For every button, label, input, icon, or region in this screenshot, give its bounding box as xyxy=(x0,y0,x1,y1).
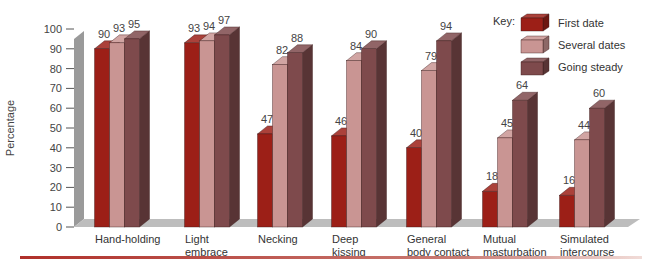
value-label: 16 xyxy=(563,174,575,186)
bar: 90 xyxy=(362,28,387,227)
bar: 97 xyxy=(215,14,240,227)
category-label: Hand-holding xyxy=(95,233,160,245)
value-label: 88 xyxy=(291,32,303,44)
legend-item: Going steady xyxy=(521,58,623,75)
bar-chart: 0102030405060708090100 90939593949747828… xyxy=(0,0,665,272)
value-label: 44 xyxy=(578,119,590,131)
category-label: Necking xyxy=(258,233,298,245)
bottom-rule xyxy=(20,256,642,259)
value-label: 90 xyxy=(98,28,110,40)
value-label: 84 xyxy=(350,40,362,52)
bar-group: 407994 xyxy=(407,20,462,227)
legend-item: Several dates xyxy=(521,36,626,53)
y-tick-label: 30 xyxy=(50,162,62,174)
y-tick-label: 50 xyxy=(50,122,62,134)
value-label: 94 xyxy=(203,20,215,32)
bar-group: 184564 xyxy=(483,79,538,227)
y-tick-label: 40 xyxy=(50,142,62,154)
value-label: 47 xyxy=(261,113,273,125)
bar-group: 478288 xyxy=(258,32,313,227)
legend-swatch xyxy=(521,62,543,75)
category-label: Light xyxy=(185,233,209,245)
axis-wall xyxy=(74,31,84,227)
y-tick-label: 70 xyxy=(50,82,62,94)
value-label: 40 xyxy=(410,127,422,139)
value-label: 18 xyxy=(486,170,498,182)
value-label: 93 xyxy=(188,22,200,34)
bar: 95 xyxy=(125,18,150,227)
value-label: 64 xyxy=(516,79,528,91)
bar: 94 xyxy=(437,20,462,227)
value-label: 90 xyxy=(365,28,377,40)
bar-group: 468490 xyxy=(332,28,387,227)
category-label: Simulated xyxy=(560,233,609,245)
legend-label: Going steady xyxy=(558,61,623,73)
bar: 60 xyxy=(590,87,615,227)
legend-label: Several dates xyxy=(558,39,626,51)
y-tick-label: 100 xyxy=(44,23,62,35)
y-tick-label: 20 xyxy=(50,181,62,193)
y-tick-label: 90 xyxy=(50,43,62,55)
bar-group: 939497 xyxy=(185,14,240,227)
category-labels: Hand-holdingLightembraceNeckingDeepkissi… xyxy=(95,233,614,258)
bar: 88 xyxy=(288,32,313,227)
value-label: 97 xyxy=(218,14,230,26)
category-label: Mutual xyxy=(483,233,516,245)
value-label: 93 xyxy=(113,22,125,34)
y-tick-label: 10 xyxy=(50,201,62,213)
bar: 64 xyxy=(513,79,538,227)
value-label: 82 xyxy=(276,44,288,56)
category-label: General xyxy=(407,233,446,245)
y-tick-label: 80 xyxy=(50,63,62,75)
value-label: 46 xyxy=(335,115,347,127)
value-label: 45 xyxy=(501,117,513,129)
bar-group: 164460 xyxy=(560,87,615,227)
y-tick-label: 60 xyxy=(50,102,62,114)
y-axis-label: Percentage xyxy=(4,100,16,156)
value-label: 79 xyxy=(425,50,437,62)
legend-label: First date xyxy=(558,17,604,29)
legend: Key:First dateSeveral datesGoing steady xyxy=(493,14,626,75)
y-axis: 0102030405060708090100 xyxy=(44,23,74,233)
legend-title: Key: xyxy=(493,15,515,27)
legend-item: First date xyxy=(521,14,604,31)
value-label: 95 xyxy=(128,18,140,30)
bar-group: 909395 xyxy=(95,18,150,227)
category-label: Deep xyxy=(332,233,358,245)
value-label: 94 xyxy=(440,20,452,32)
value-label: 60 xyxy=(593,87,605,99)
legend-swatch xyxy=(521,18,543,31)
y-tick-label: 0 xyxy=(56,221,62,233)
legend-swatch xyxy=(521,40,543,53)
